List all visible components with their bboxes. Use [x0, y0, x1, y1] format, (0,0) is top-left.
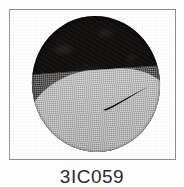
specimen-image — [24, 9, 168, 159]
figure-plate: 3IC059 — [0, 0, 184, 187]
specimen-light-shading — [24, 64, 168, 159]
specimen-light-lobe — [24, 64, 168, 159]
figure-frame — [9, 9, 176, 160]
specimen-light-region — [24, 9, 168, 159]
figure-caption: 3IC059 — [0, 166, 184, 187]
specimen-halftone-texture — [24, 64, 168, 159]
